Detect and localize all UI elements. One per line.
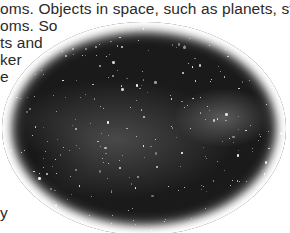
star-dot [43, 158, 44, 159]
star-dot [48, 42, 50, 44]
star-dot [26, 111, 28, 113]
star-dot [130, 107, 131, 108]
star-dot [143, 145, 145, 147]
star-dot [238, 116, 239, 117]
star-dot [43, 229, 45, 231]
star-dot [277, 204, 279, 206]
star-dot [85, 94, 86, 95]
star-dot [259, 134, 260, 135]
star-dot [268, 131, 269, 132]
star-dot [29, 108, 31, 110]
star-dot [35, 126, 37, 128]
star-dot [44, 209, 46, 211]
star-dot [132, 208, 133, 209]
star-dot [259, 228, 260, 229]
star-dot [165, 219, 166, 220]
star-dot [25, 219, 27, 221]
star-dot [136, 84, 139, 87]
star-dot [184, 45, 185, 46]
star-dot [81, 221, 83, 223]
body-text-line-3: ts and [0, 34, 43, 51]
star-dot [192, 66, 194, 68]
star-dot [45, 151, 47, 153]
star-dot [57, 139, 58, 140]
star-dot [133, 220, 135, 222]
star-dot [100, 106, 102, 108]
star-dot [129, 177, 130, 178]
star-dot [55, 159, 56, 160]
star-dot [176, 137, 177, 138]
star-dot [222, 141, 224, 143]
star-dot [8, 226, 10, 228]
star-dot [199, 64, 202, 67]
star-dot [203, 186, 204, 187]
star-dot [211, 79, 212, 80]
star-dot [7, 192, 8, 193]
star-dot [266, 104, 268, 106]
star-dot [206, 191, 207, 192]
star-dot [143, 116, 145, 118]
star-dot [70, 176, 71, 177]
star-dot [21, 226, 23, 228]
star-dot [201, 189, 202, 190]
body-text-line-1: oms. Objects in space, such as planets, … [0, 0, 290, 17]
star-dot [43, 74, 44, 75]
star-dot [23, 201, 25, 203]
star-dot [112, 61, 115, 64]
star-dot [231, 41, 232, 42]
star-dot [104, 147, 107, 150]
star-dot [71, 194, 72, 195]
star-dot [65, 216, 68, 219]
star-dot [267, 29, 268, 30]
star-dot [280, 132, 283, 135]
star-dot [239, 181, 240, 182]
star-dot [226, 217, 227, 218]
star-dot [191, 23, 192, 24]
body-text-line-7: . [0, 221, 4, 233]
star-dot [26, 211, 27, 212]
star-dot [282, 161, 284, 163]
star-dot [164, 221, 165, 222]
star-dot [217, 161, 218, 162]
star-dot [218, 66, 219, 67]
star-dot [255, 28, 256, 29]
star-dot [24, 150, 25, 151]
star-dot [108, 135, 109, 136]
star-dot [75, 169, 77, 171]
star-dot [191, 218, 193, 220]
star-dot [47, 50, 48, 51]
star-dot [194, 58, 196, 60]
star-dot [111, 191, 113, 193]
star-dot [232, 136, 235, 139]
star-dot [151, 195, 154, 198]
star-dot [117, 70, 119, 72]
star-dot [107, 121, 110, 124]
star-dot [19, 210, 20, 211]
body-text-line-2: oms. So [0, 17, 58, 34]
star-dot [133, 26, 134, 27]
star-dot [35, 74, 36, 75]
star-dot [119, 37, 121, 39]
star-dot [263, 58, 264, 59]
star-dot [269, 229, 271, 231]
star-dot [63, 147, 64, 148]
star-dot [126, 78, 127, 79]
star-dot [281, 78, 282, 79]
star-dot [252, 228, 254, 230]
star-dot [54, 190, 56, 192]
star-dot [41, 70, 42, 71]
star-dot [112, 75, 114, 77]
star-dot [276, 72, 278, 74]
star-dot [280, 23, 281, 24]
star-dot [102, 158, 103, 159]
star-dot [227, 56, 229, 58]
star-dot [135, 224, 136, 225]
star-dot [276, 192, 278, 194]
star-dot [190, 128, 191, 129]
star-dot [246, 181, 247, 182]
star-dot [156, 166, 158, 168]
star-dot [111, 223, 112, 224]
star-dot [205, 156, 206, 157]
star-dot [92, 84, 94, 86]
star-dot [275, 44, 276, 45]
